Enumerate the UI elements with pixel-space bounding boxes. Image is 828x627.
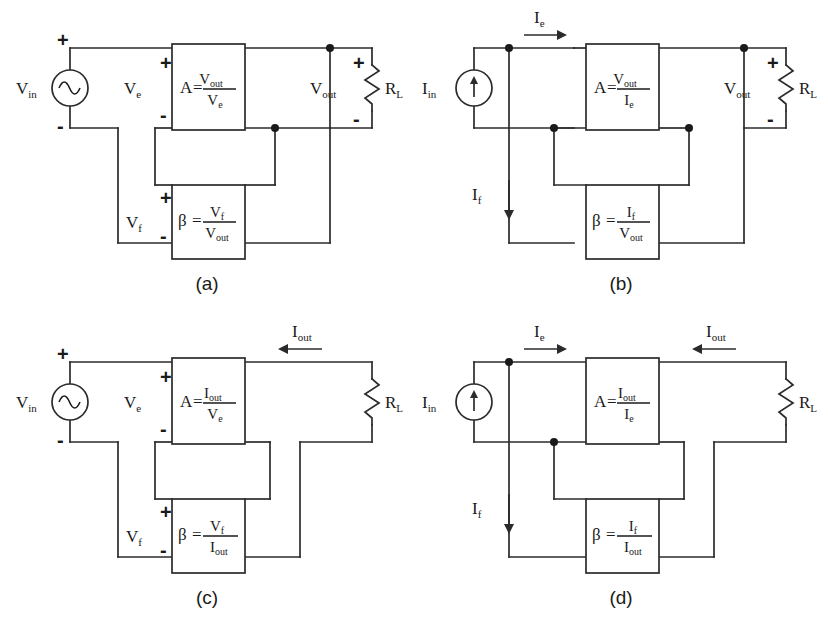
vf-plus-sign: + bbox=[160, 501, 172, 523]
amplifier-symbol: A bbox=[180, 392, 193, 411]
ve-minus-sign: - bbox=[160, 104, 167, 126]
load-label: RL bbox=[799, 79, 817, 100]
ve-plus-sign: + bbox=[160, 52, 172, 74]
vf-label: Vf bbox=[126, 527, 142, 548]
source-minus-sign: - bbox=[57, 115, 64, 137]
source-label: Iin bbox=[422, 79, 437, 100]
node-dot bbox=[550, 438, 558, 446]
node-dot bbox=[740, 44, 748, 52]
source-label: Vin bbox=[16, 79, 37, 100]
load-resistor-icon bbox=[779, 65, 793, 111]
ve-label: Ve bbox=[124, 393, 141, 414]
load-label: RL bbox=[385, 393, 403, 414]
load-label: RL bbox=[385, 79, 403, 100]
node-dot bbox=[685, 124, 693, 132]
if-label: If bbox=[472, 499, 482, 520]
ac-voltage-source-icon bbox=[52, 70, 88, 106]
amplifier-equals: = bbox=[607, 392, 617, 411]
iout-label: Iout bbox=[292, 322, 312, 343]
if-label: If bbox=[472, 185, 482, 206]
source-plus-sign: + bbox=[57, 343, 69, 365]
feedback-symbol: β bbox=[178, 525, 187, 544]
feedback-equals: = bbox=[192, 525, 202, 544]
ve-label: Ve bbox=[124, 79, 141, 100]
panel-d-shunt-series: Iin Ie Iout If bbox=[414, 314, 828, 627]
vout-minus-sign: - bbox=[353, 108, 360, 130]
load-resistor-icon bbox=[365, 379, 379, 425]
source-plus-sign: + bbox=[57, 29, 69, 51]
ie-label: Ie bbox=[534, 8, 545, 29]
source-minus-sign: - bbox=[57, 429, 64, 451]
vf-plus-sign: + bbox=[160, 187, 172, 209]
ve-minus-sign: - bbox=[160, 418, 167, 440]
node-dot bbox=[550, 124, 558, 132]
panel-caption-c: (c) bbox=[196, 587, 218, 608]
ac-voltage-source-icon bbox=[52, 384, 88, 420]
iout-label: Iout bbox=[706, 322, 726, 343]
figure-root: + - Vin + - Ve A = Vout Ve β bbox=[0, 0, 828, 627]
vout-label: Vout bbox=[310, 79, 336, 100]
vout-plus-sign: + bbox=[353, 52, 365, 74]
node-dot bbox=[326, 44, 334, 52]
vout-plus-sign: + bbox=[767, 52, 779, 74]
feedback-equals: = bbox=[606, 211, 616, 230]
source-label: Vin bbox=[16, 393, 37, 414]
load-label: RL bbox=[799, 393, 817, 414]
iout-arrow-icon bbox=[692, 344, 736, 354]
node-dot bbox=[505, 44, 513, 52]
panel-b-shunt-shunt: Iin Ie If A = Vout bbox=[414, 0, 828, 313]
load-resistor-icon bbox=[779, 379, 793, 425]
if-arrow-icon bbox=[504, 180, 514, 220]
vout-label: Vout bbox=[724, 79, 750, 100]
panel-a-series-shunt: + - Vin + - Ve A = Vout Ve β bbox=[0, 0, 414, 313]
ve-plus-sign: + bbox=[160, 366, 172, 388]
vf-label: Vf bbox=[126, 213, 142, 234]
dc-current-source-icon bbox=[456, 70, 492, 106]
feedback-equals: = bbox=[606, 525, 616, 544]
panel-c-series-series: + - Vin + - Ve Iout A = Io bbox=[0, 314, 414, 627]
feedback-symbol: β bbox=[592, 525, 601, 544]
iout-arrow-icon bbox=[278, 344, 322, 354]
ie-arrow-icon bbox=[524, 30, 567, 40]
ie-arrow-icon bbox=[524, 344, 567, 354]
panel-caption-a: (a) bbox=[195, 273, 218, 294]
amplifier-symbol: A bbox=[180, 78, 193, 97]
dc-current-source-icon bbox=[456, 384, 492, 420]
vout-minus-sign: - bbox=[767, 108, 774, 130]
feedback-symbol: β bbox=[592, 211, 601, 230]
feedback-symbol: β bbox=[178, 211, 187, 230]
load-resistor-icon bbox=[365, 65, 379, 111]
vf-minus-sign: - bbox=[160, 539, 167, 561]
vf-minus-sign: - bbox=[160, 225, 167, 247]
ie-label: Ie bbox=[534, 322, 545, 343]
panel-caption-b: (b) bbox=[609, 273, 632, 294]
panel-caption-d: (d) bbox=[609, 587, 632, 608]
amplifier-symbol: A bbox=[594, 78, 607, 97]
if-arrow-icon bbox=[504, 494, 514, 534]
node-dot bbox=[271, 124, 279, 132]
feedback-equals: = bbox=[192, 211, 202, 230]
amplifier-equals: = bbox=[193, 392, 203, 411]
source-label: Iin bbox=[422, 393, 437, 414]
amplifier-symbol: A bbox=[594, 392, 607, 411]
node-dot bbox=[505, 358, 513, 366]
